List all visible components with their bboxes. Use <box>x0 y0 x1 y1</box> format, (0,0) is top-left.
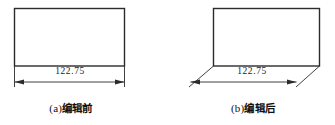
figure-a-rectangle <box>15 9 125 67</box>
figure-a-caption: (a)编辑前 <box>0 100 142 115</box>
figure-root: .ln { stroke:#2b2b2b; fill:none; } .rect… <box>0 0 335 125</box>
figure-b-rectangle <box>214 9 320 67</box>
figure-b-caption-text: 编辑后 <box>244 102 275 114</box>
figure-b-arrowhead-right <box>287 80 297 85</box>
figure-a-caption-label: (a) <box>49 102 62 114</box>
figure-b-caption-label: (b) <box>231 102 244 114</box>
figure-a-dimension-value: 122.75 <box>18 66 122 76</box>
figure-a-arrowhead-left <box>15 80 25 85</box>
figure-b-dimension-value: 122.75 <box>200 66 304 76</box>
figure-b-caption: (b)编辑后 <box>182 100 324 115</box>
figure-a-arrowhead-right <box>115 80 125 85</box>
figure-a-caption-text: 编辑前 <box>62 102 93 114</box>
figure-b-arrowhead-left <box>191 80 201 85</box>
